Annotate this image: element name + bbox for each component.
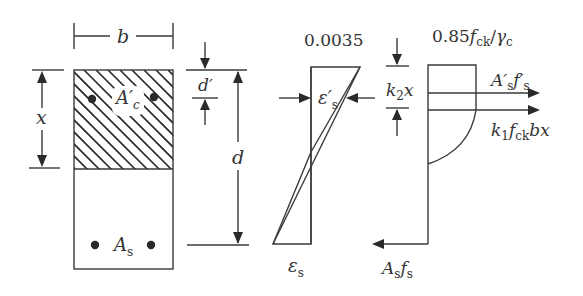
neutral-axis-depth-label: x [36, 106, 47, 128]
compression-bar-left [88, 95, 96, 103]
stress-block [428, 65, 476, 244]
strain-diagram: 0.0035 ε′s εs [273, 30, 375, 280]
tension-force-label: Asfs [380, 258, 413, 281]
width-dimension: b [74, 23, 173, 49]
tension-steel-label: As [112, 234, 133, 259]
tension-strain-triangle [273, 152, 311, 244]
effective-depth-dimension: d [187, 71, 249, 245]
effective-depth-label: d [232, 146, 244, 168]
concrete-force-arrow-icon [528, 105, 540, 115]
tension-bar-right [147, 241, 155, 249]
top-strain-label: 0.0035 [304, 30, 363, 50]
tension-steel-strain-label: εs [288, 255, 304, 280]
compression-steel-force-label: A′sf′s [489, 70, 530, 93]
peak-stress-label: 0.85fck/γc [432, 26, 513, 49]
arrow-left-icon [346, 93, 358, 103]
compression-bar-right [150, 93, 158, 101]
tension-force-arrow-icon [372, 239, 384, 249]
lever-label: k2x [386, 80, 414, 103]
rc-section-diagram: b [0, 0, 583, 296]
stress-diagram: 0.85fck/γc k2x A′sf′s k1fckbx [372, 26, 550, 281]
lever-dimension: k2x [386, 38, 414, 136]
neutral-axis-depth-dimension: x [29, 70, 64, 168]
cross-section: b [0, 23, 268, 269]
arrow-right-icon [299, 93, 311, 103]
tension-bar-left [91, 241, 99, 249]
compression-steel-force-arrow-icon [528, 88, 540, 98]
concrete-force-label: k1fckbx [491, 120, 550, 143]
width-label: b [117, 25, 129, 47]
cover-label: d′ [198, 75, 213, 95]
compression-steel-strain-label: ε′s [318, 87, 338, 112]
